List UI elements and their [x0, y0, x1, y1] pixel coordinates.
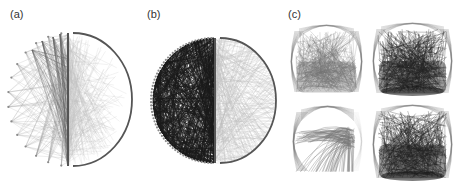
panel-c-top-right — [373, 23, 452, 96]
panel-c-bottom-right — [373, 105, 452, 181]
panel-c-grid-networks — [291, 23, 452, 181]
panel-c-bottom-left — [293, 106, 362, 172]
panel-c-top-left — [291, 25, 362, 93]
panel-b-semicircular-network — [150, 37, 276, 164]
panel-a-semicircular-network — [7, 32, 132, 166]
